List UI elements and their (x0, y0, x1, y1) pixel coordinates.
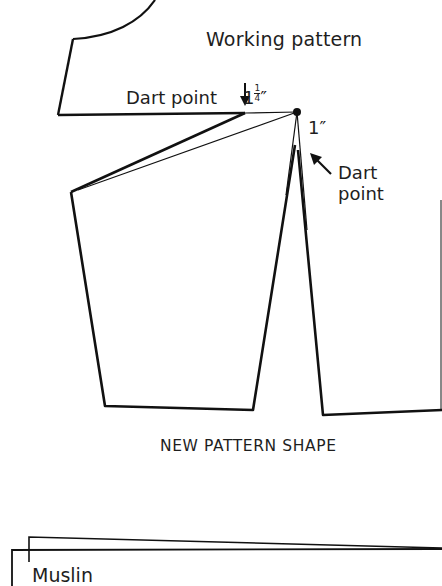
dart-extension-line (245, 112, 297, 113)
muslin-label: Muslin (32, 566, 93, 585)
dart-point-right-label: Dart point (338, 162, 384, 204)
left-piece (71, 145, 295, 410)
measure-right-label: 1″ (308, 119, 326, 137)
measure-top-whole: 1 (243, 87, 254, 108)
dart-point-top-text: Dart point (126, 87, 217, 108)
dart-point-top-label: Dart point114″ (126, 84, 267, 107)
dart-thin-right (297, 112, 307, 230)
neckline-curve (73, 0, 155, 39)
dart-point-right-line1: Dart (338, 162, 384, 183)
pattern-bottom-edge (58, 113, 245, 115)
up-left-arrow-icon (310, 153, 331, 174)
caption: NEW PATTERN SHAPE (160, 439, 337, 455)
pattern-left-edge (58, 39, 73, 115)
dart-point-right-line2: point (338, 183, 384, 204)
dart-thin-left (286, 112, 297, 195)
old-dart-leg (71, 113, 245, 192)
new-dart-leg (78, 112, 297, 190)
measure-top-unit: ″ (260, 87, 267, 108)
diagram-title: Working pattern (206, 30, 362, 49)
